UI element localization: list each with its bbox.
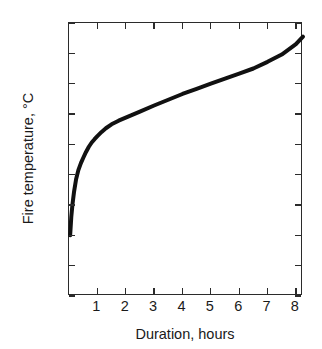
x-tick-mark bbox=[210, 23, 211, 29]
x-tick-mark bbox=[239, 23, 240, 29]
x-tick-mark bbox=[182, 288, 183, 294]
x-tick-mark bbox=[153, 23, 154, 29]
x-tick-mark bbox=[239, 288, 240, 294]
y-tick-mark bbox=[69, 174, 75, 175]
x-tick-label: 6 bbox=[226, 299, 250, 314]
y-tick-mark bbox=[69, 113, 75, 114]
x-tick-mark bbox=[97, 23, 98, 29]
y-axis-title: Fire temperature, °C bbox=[18, 22, 38, 295]
y-tick-mark bbox=[295, 53, 301, 54]
y-tick-mark bbox=[69, 295, 75, 296]
y-tick-mark bbox=[295, 295, 301, 296]
x-tick-mark bbox=[210, 288, 211, 294]
x-tick-label: 2 bbox=[113, 299, 137, 314]
plot-area bbox=[68, 22, 302, 295]
y-tick-mark bbox=[295, 144, 301, 145]
x-tick-label: 3 bbox=[141, 299, 165, 314]
x-tick-label: 5 bbox=[198, 299, 222, 314]
y-tick-mark bbox=[295, 83, 301, 84]
y-tick-mark bbox=[69, 235, 75, 236]
y-tick-mark bbox=[69, 22, 75, 23]
y-tick-mark bbox=[295, 113, 301, 114]
x-tick-label: 4 bbox=[169, 299, 193, 314]
x-tick-mark bbox=[97, 288, 98, 294]
x-tick-mark bbox=[182, 23, 183, 29]
y-tick-mark bbox=[295, 265, 301, 266]
y-tick-mark bbox=[295, 235, 301, 236]
fire-curve-line bbox=[70, 37, 303, 236]
fire-temperature-chart: Fire temperature, °C Duration, hours 400… bbox=[0, 0, 322, 349]
x-tick-label: 1 bbox=[84, 299, 108, 314]
y-tick-mark bbox=[69, 53, 75, 54]
x-tick-label: 8 bbox=[283, 299, 307, 314]
x-tick-label: 7 bbox=[255, 299, 279, 314]
x-tick-mark bbox=[153, 288, 154, 294]
x-tick-mark bbox=[267, 288, 268, 294]
y-tick-mark bbox=[295, 204, 301, 205]
x-axis-title: Duration, hours bbox=[68, 326, 302, 342]
y-tick-mark bbox=[295, 174, 301, 175]
x-tick-mark bbox=[295, 23, 296, 29]
y-tick-mark bbox=[69, 265, 75, 266]
x-tick-mark bbox=[295, 288, 296, 294]
x-tick-mark bbox=[125, 288, 126, 294]
x-tick-mark bbox=[125, 23, 126, 29]
y-tick-mark bbox=[69, 83, 75, 84]
x-tick-mark bbox=[267, 23, 268, 29]
curve-svg bbox=[69, 23, 303, 296]
y-tick-mark bbox=[69, 204, 75, 205]
y-tick-mark bbox=[69, 144, 75, 145]
